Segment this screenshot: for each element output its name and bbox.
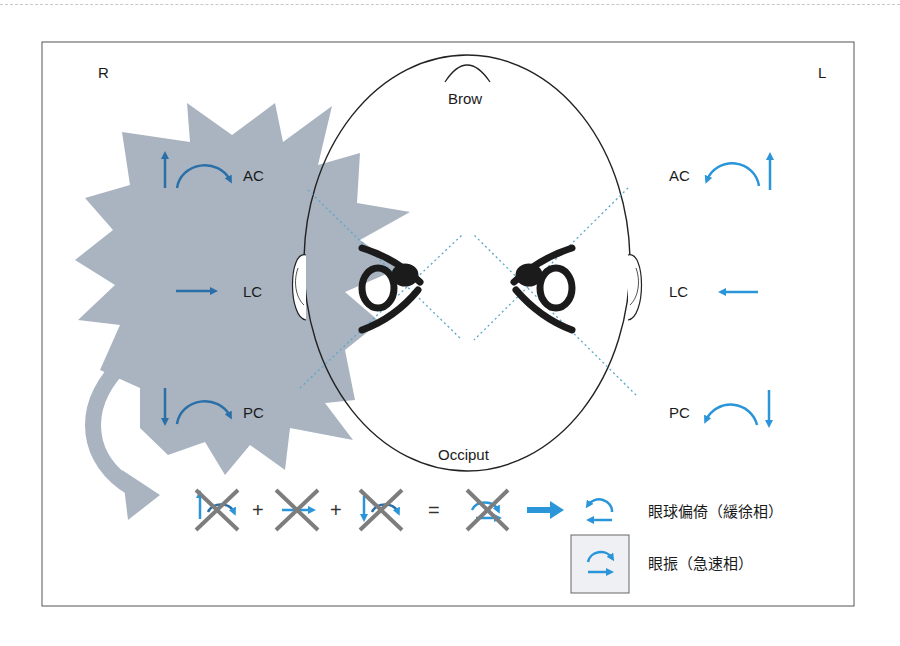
right-lc-label: LC xyxy=(243,283,262,300)
legend-fast-phase-label: 眼振（急速相） xyxy=(648,555,753,573)
occiput-label: Occiput xyxy=(438,446,490,463)
svg-text:=: = xyxy=(428,499,440,521)
left-ac-label: AC xyxy=(669,167,690,184)
legend-fast-phase-box xyxy=(571,535,629,593)
left-side-label: L xyxy=(818,64,826,81)
legend-slow-phase-label: 眼球偏倚（緩徐相） xyxy=(648,503,783,521)
svg-text:+: + xyxy=(330,499,342,521)
right-pc-label: PC xyxy=(243,404,264,421)
left-pc-label: PC xyxy=(669,404,690,421)
svg-text:+: + xyxy=(252,499,264,521)
brow-label: Brow xyxy=(448,90,482,107)
vestibular-diagram: R L Brow Occiput AC LC PC AC LC PC xyxy=(0,0,900,646)
left-lc-label: LC xyxy=(669,283,688,300)
right-side-label: R xyxy=(98,64,109,81)
right-ac-label: AC xyxy=(243,167,264,184)
